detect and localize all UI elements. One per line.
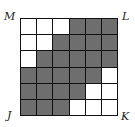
unshaded-cell: [21, 51, 36, 66]
unshaded-cell: [70, 100, 85, 115]
unshaded-cell: [102, 84, 117, 99]
shaded-cell: [70, 84, 85, 99]
vertex-label-m: M: [4, 11, 15, 22]
shaded-cell: [53, 68, 68, 83]
shaded-cell: [70, 19, 85, 34]
unshaded-cell: [21, 35, 36, 50]
shaded-cell: [102, 35, 117, 50]
unshaded-cell: [37, 19, 52, 34]
shaded-cell: [37, 51, 52, 66]
shaded-cell: [37, 84, 52, 99]
unshaded-cell: [21, 19, 36, 34]
unshaded-cell: [86, 84, 101, 99]
shaded-square-grid: [20, 18, 118, 116]
shaded-cell: [37, 68, 52, 83]
shaded-cell: [86, 51, 101, 66]
unshaded-cell: [102, 100, 117, 115]
shaded-cell: [70, 68, 85, 83]
shaded-cell: [102, 19, 117, 34]
shaded-cell: [70, 51, 85, 66]
unshaded-cell: [86, 100, 101, 115]
unshaded-cell: [37, 35, 52, 50]
shaded-cell: [53, 84, 68, 99]
shaded-cell: [102, 51, 117, 66]
shaded-cell: [53, 100, 68, 115]
vertex-label-j: J: [7, 110, 11, 121]
shaded-cell: [86, 68, 101, 83]
shaded-cell: [21, 84, 36, 99]
shaded-cell: [86, 35, 101, 50]
shaded-cell: [53, 51, 68, 66]
unshaded-cell: [53, 19, 68, 34]
shaded-cell: [53, 35, 68, 50]
vertex-label-k: K: [121, 111, 129, 122]
shaded-cell: [21, 68, 36, 83]
shaded-cell: [37, 100, 52, 115]
shaded-cell: [86, 19, 101, 34]
unshaded-cell: [102, 68, 117, 83]
vertex-label-l: L: [122, 11, 129, 22]
shaded-cell: [70, 35, 85, 50]
shaded-cell: [21, 100, 36, 115]
